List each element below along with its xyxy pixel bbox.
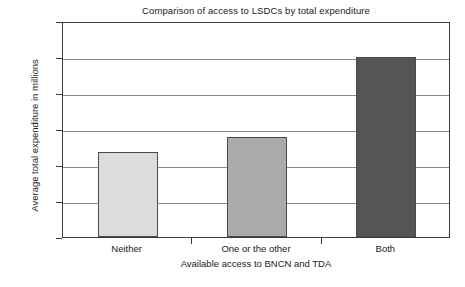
plot-inner	[63, 23, 449, 237]
y-axis-tick-mark	[56, 202, 62, 203]
y-axis-tick-mark	[56, 94, 62, 95]
x-axis-title: Available access to BNCN and TDA	[62, 258, 450, 269]
bar	[356, 57, 416, 237]
bar	[227, 137, 287, 237]
y-axis-tick-mark	[56, 22, 62, 23]
y-axis-tick-mark	[56, 58, 62, 59]
x-axis-tick-label: Neither	[62, 243, 191, 254]
y-axis-tick-mark	[56, 130, 62, 131]
x-axis-tick-label: One or the other	[191, 243, 320, 254]
x-axis-separator-tick	[191, 238, 192, 244]
bar-chart: Comparison of access to LSDCs by total e…	[0, 0, 465, 287]
bar	[98, 152, 158, 238]
x-axis-tick-label: Both	[321, 243, 450, 254]
x-axis-separator-tick	[321, 238, 322, 244]
y-axis-title: Average total expenditure in millions	[29, 36, 40, 236]
plot-area	[62, 22, 450, 238]
chart-title: Comparison of access to LSDCs by total e…	[62, 5, 450, 16]
y-axis-tick-mark	[56, 238, 62, 239]
y-axis-tick-mark	[56, 166, 62, 167]
